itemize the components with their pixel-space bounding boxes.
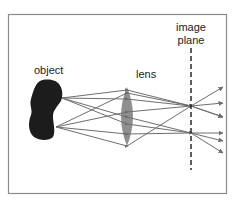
lens-imaging-diagram: object lens image plane: [0, 0, 235, 200]
object-label: object: [34, 64, 63, 76]
image-plane-label-line1: image: [176, 21, 206, 33]
lens-label: lens: [136, 68, 157, 80]
image-plane-label-line2: plane: [178, 34, 205, 46]
